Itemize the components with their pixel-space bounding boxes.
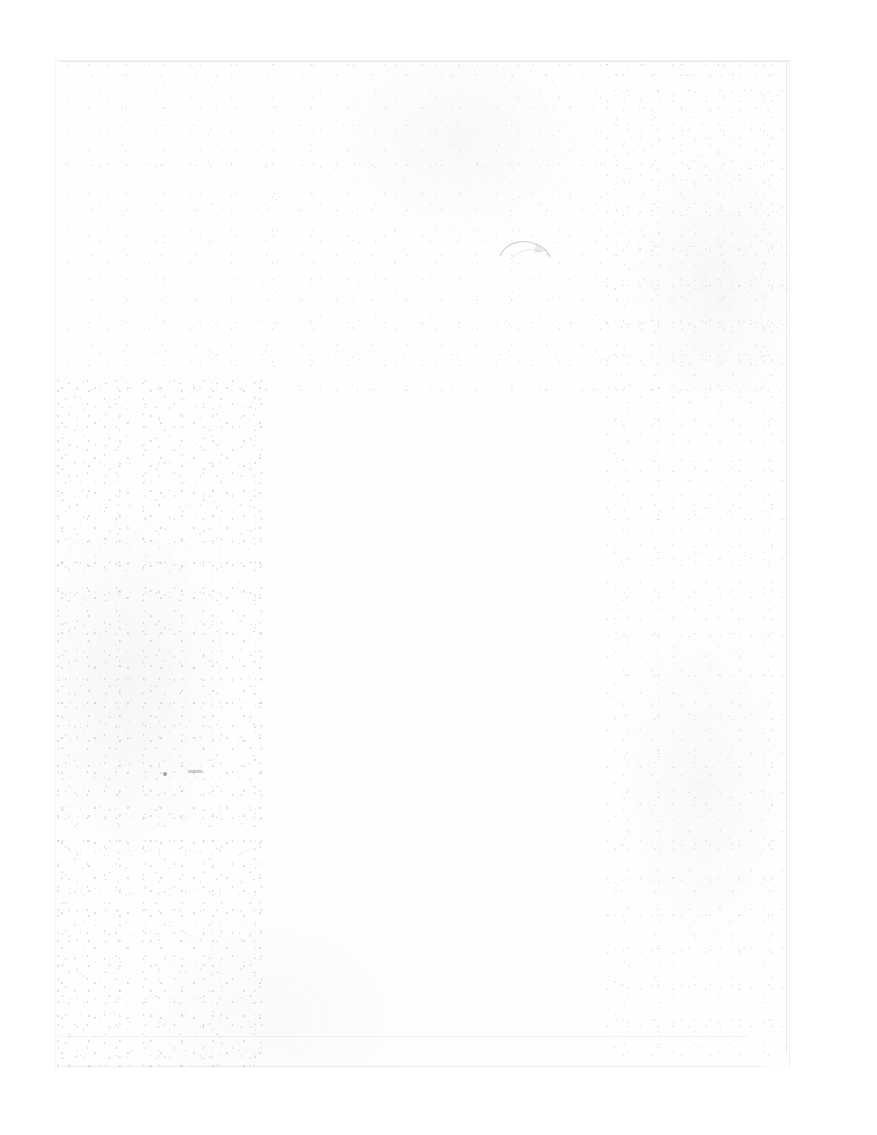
dark-fleck-mark xyxy=(163,772,167,776)
scan-edge-bottom xyxy=(62,1066,762,1067)
scan-edge-top xyxy=(60,61,790,62)
scan-edge-right xyxy=(786,62,787,1052)
scanned-page xyxy=(0,0,877,1135)
arc-smudge-mark xyxy=(498,236,552,264)
dark-streak-mark xyxy=(188,770,202,773)
scan-region xyxy=(55,60,790,1068)
faint-rule-trace xyxy=(58,1036,748,1037)
